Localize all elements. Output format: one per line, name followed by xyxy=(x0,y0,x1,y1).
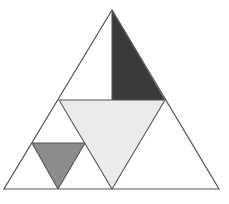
triangle-diagram xyxy=(0,0,229,204)
diagram-canvas xyxy=(0,0,229,204)
